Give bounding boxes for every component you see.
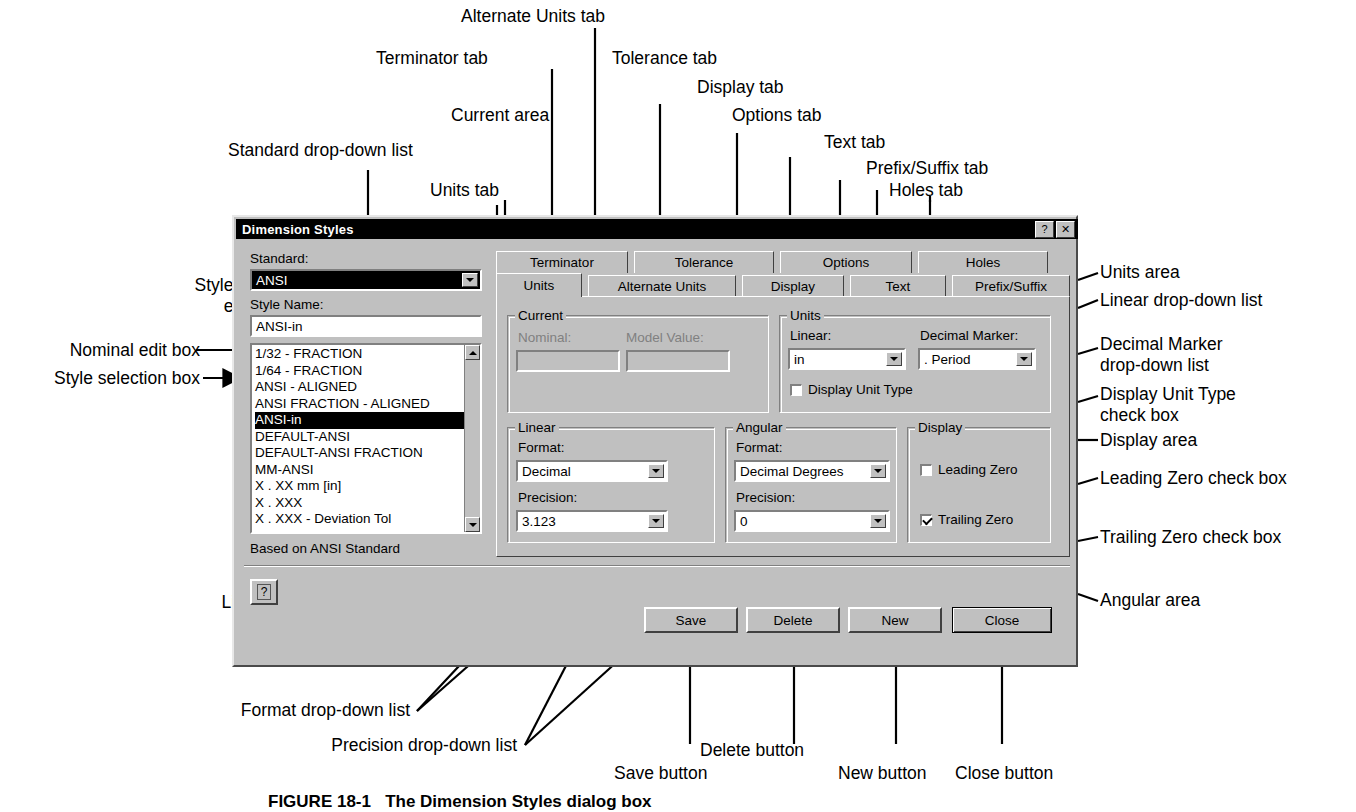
tab-page-units: Current Nominal: Model Value: Units Line… (496, 296, 1070, 557)
style-list-scrollbar[interactable] (464, 345, 480, 532)
annotation-nominal-edit-box: Nominal edit box (20, 340, 200, 361)
trailing-zero-label: Trailing Zero (938, 512, 1013, 527)
whats-this-icon[interactable]: ? (1035, 221, 1054, 238)
tab-terminator[interactable]: Terminator (496, 251, 628, 273)
tab-text[interactable]: Text (850, 275, 946, 297)
list-item[interactable]: 1/32 - FRACTION (255, 346, 480, 363)
tab-alternate-units[interactable]: Alternate Units (588, 275, 736, 297)
tab-tolerance[interactable]: Tolerance (634, 251, 774, 273)
annotation-leading-zero-checkbox: Leading Zero check box (1100, 468, 1287, 489)
angular-precision-dropdown[interactable]: 0 (734, 510, 890, 532)
linear-dropdown[interactable]: in (788, 348, 906, 370)
tab-display[interactable]: Display (742, 275, 844, 297)
trailing-zero-checkbox[interactable]: Trailing Zero (920, 512, 1013, 527)
model-value-label: Model Value: (626, 330, 704, 345)
titlebar-button-group: ? ✕ (1035, 221, 1075, 238)
list-item[interactable]: X . XXX - Deviation Tol (255, 511, 480, 528)
list-item[interactable]: ANSI - ALIGNED (255, 379, 480, 396)
tab-options[interactable]: Options (780, 251, 912, 273)
style-name-edit-box[interactable]: ANSI-in (250, 315, 482, 337)
annotation-display-area: Display area (1100, 430, 1197, 451)
chevron-down-icon[interactable] (648, 464, 664, 478)
display-group-title: Display (915, 420, 965, 435)
standard-dropdown[interactable]: ANSI (250, 269, 482, 291)
annotation-close-button: Close button (955, 763, 1053, 784)
list-item[interactable]: ANSI FRACTION - ALIGNED (255, 396, 480, 413)
list-item[interactable]: X . XXX (255, 495, 480, 512)
annotation-standard-dropdown: Standard drop-down list (228, 140, 413, 161)
angular-format-dropdown[interactable]: Decimal Degrees (734, 460, 890, 482)
model-value-edit-box (626, 350, 730, 372)
annotation-decimal-marker-line2: drop-down list (1100, 355, 1209, 376)
dimension-styles-dialog: Dimension Styles ? ✕ Standard: ANSI Styl… (232, 215, 1078, 667)
style-selection-box[interactable]: 1/32 - FRACTION 1/64 - FRACTION ANSI - A… (250, 343, 482, 534)
linear-format-value: Decimal (518, 464, 648, 479)
chevron-down-icon[interactable] (870, 464, 886, 478)
dialog-title: Dimension Styles (242, 222, 354, 237)
angular-precision-label: Precision: (736, 490, 795, 505)
list-item[interactable]: MM-ANSI (255, 462, 480, 479)
linear-precision-label: Precision: (518, 490, 577, 505)
list-item[interactable]: X . XX mm [in] (255, 478, 480, 495)
angular-precision-value: 0 (736, 514, 870, 529)
linear-precision-dropdown[interactable]: 3.123 (516, 510, 668, 532)
list-item[interactable]: 1/64 - FRACTION (255, 363, 480, 380)
style-list-items: 1/32 - FRACTION 1/64 - FRACTION ANSI - A… (252, 345, 480, 528)
delete-button[interactable]: Delete (746, 607, 840, 633)
annotation-prefix-suffix-tab: Prefix/Suffix tab (866, 158, 988, 179)
decimal-marker-dropdown-value: . Period (920, 352, 1016, 367)
tab-units[interactable]: Units (496, 273, 582, 297)
annotation-display-unit-type-line1: Display Unit Type (1100, 384, 1236, 405)
display-unit-type-checkbox[interactable]: Display Unit Type (790, 382, 913, 397)
close-icon[interactable]: ✕ (1056, 221, 1075, 238)
scroll-down-icon[interactable] (465, 517, 480, 532)
angular-format-value: Decimal Degrees (736, 464, 870, 479)
chevron-down-icon[interactable] (462, 273, 478, 287)
linear-group: Linear Format: Decimal Precision: 3.123 (507, 427, 715, 543)
standard-label: Standard: (250, 251, 309, 266)
annotation-units-tab: Units tab (430, 180, 499, 201)
tab-holes[interactable]: Holes (918, 251, 1048, 273)
annotation-display-tab: Display tab (697, 77, 784, 98)
annotation-trailing-zero-checkbox: Trailing Zero check box (1100, 527, 1281, 548)
help-button[interactable]: ? (250, 579, 278, 605)
checkbox-icon[interactable] (920, 464, 932, 476)
current-group-title: Current (515, 308, 566, 323)
list-item-selected[interactable]: ANSI-in (255, 412, 480, 429)
units-group: Units Linear: Decimal Marker: in . Perio… (779, 315, 1051, 413)
nominal-label: Nominal: (518, 330, 571, 345)
chevron-down-icon[interactable] (648, 514, 664, 528)
list-item[interactable]: DEFAULT-ANSI (255, 429, 480, 446)
save-button[interactable]: Save (644, 607, 738, 633)
leading-zero-checkbox[interactable]: Leading Zero (920, 462, 1018, 477)
units-group-title: Units (787, 308, 824, 323)
chevron-down-icon[interactable] (870, 514, 886, 528)
linear-format-dropdown[interactable]: Decimal (516, 460, 668, 482)
scroll-up-icon[interactable] (465, 345, 480, 360)
decimal-marker-label: Decimal Marker: (920, 328, 1018, 343)
annotation-holes-tab: Holes tab (889, 180, 963, 201)
close-button[interactable]: Close (952, 607, 1052, 633)
display-unit-type-label: Display Unit Type (808, 382, 913, 397)
chevron-down-icon[interactable] (886, 352, 902, 366)
annotation-decimal-marker-line1: Decimal Marker (1100, 334, 1223, 355)
list-item[interactable]: DEFAULT-ANSI FRACTION (255, 445, 480, 462)
dialog-titlebar[interactable]: Dimension Styles ? ✕ (236, 219, 1078, 239)
checkbox-checked-icon[interactable] (920, 514, 932, 526)
angular-group: Angular Format: Decimal Degrees Precisio… (725, 427, 897, 543)
annotation-angular-area: Angular area (1100, 590, 1200, 611)
annotation-linear-dropdown: Linear drop-down list (1100, 290, 1262, 311)
annotation-alternate-units-tab: Alternate Units tab (461, 6, 605, 27)
annotation-current-area: Current area (451, 105, 549, 126)
annotation-units-area: Units area (1100, 262, 1180, 283)
decimal-marker-dropdown[interactable]: . Period (918, 348, 1036, 370)
tab-prefix-suffix[interactable]: Prefix/Suffix (952, 275, 1070, 297)
checkbox-icon[interactable] (790, 384, 802, 396)
annotation-display-unit-type-line2: check box (1100, 405, 1179, 426)
chevron-down-icon[interactable] (1016, 352, 1032, 366)
new-button[interactable]: New (848, 607, 942, 633)
linear-precision-value: 3.123 (518, 514, 648, 529)
linear-format-label: Format: (518, 440, 565, 455)
display-group: Display Leading Zero Trailing Zero (907, 427, 1051, 543)
